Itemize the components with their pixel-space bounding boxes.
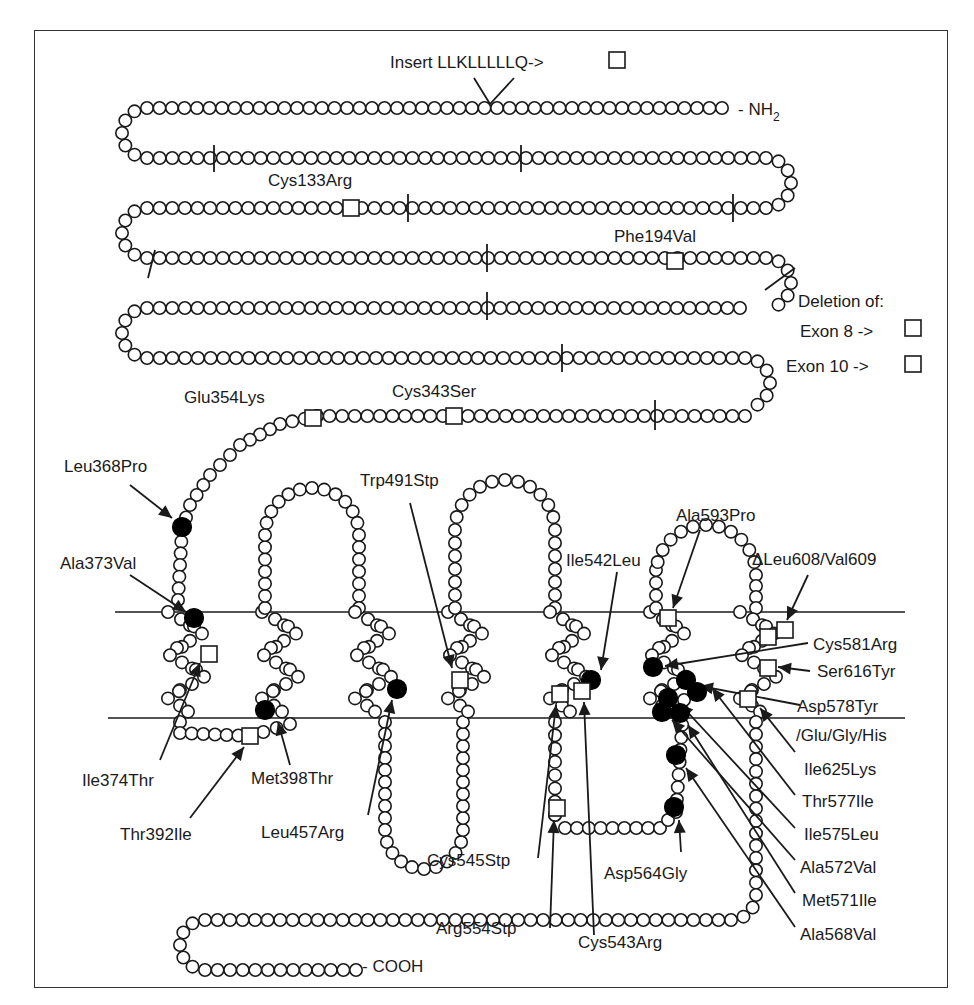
residue bbox=[230, 352, 242, 364]
arrow-ala572val bbox=[672, 720, 795, 860]
residue bbox=[278, 102, 290, 114]
label-thr577ile: Thr577Ile bbox=[802, 792, 874, 811]
residue bbox=[469, 302, 481, 314]
residue bbox=[722, 152, 734, 164]
residue bbox=[444, 152, 456, 164]
residue bbox=[688, 410, 700, 422]
label-glu354lys: Glu354Lys bbox=[184, 388, 265, 407]
residue bbox=[613, 410, 625, 422]
residue bbox=[254, 302, 266, 314]
residue bbox=[646, 202, 658, 214]
residue bbox=[524, 914, 536, 926]
residue bbox=[697, 202, 709, 214]
residue bbox=[459, 352, 471, 364]
residue bbox=[507, 152, 519, 164]
residue bbox=[747, 152, 759, 164]
residue bbox=[678, 102, 690, 114]
residue bbox=[650, 352, 662, 364]
residue bbox=[537, 914, 549, 926]
residue bbox=[457, 776, 469, 788]
residue bbox=[274, 964, 286, 976]
residue bbox=[750, 753, 762, 765]
residue bbox=[419, 202, 431, 214]
residue bbox=[469, 252, 481, 264]
marker-thr392ile bbox=[242, 728, 258, 744]
residue bbox=[750, 876, 762, 888]
residue bbox=[457, 152, 469, 164]
residue bbox=[154, 352, 166, 364]
deletion-title: Deletion of: bbox=[798, 292, 884, 311]
residue bbox=[276, 705, 288, 717]
residue bbox=[162, 692, 174, 704]
label-cys133arg: Cys133Arg bbox=[268, 171, 352, 190]
arrowhead bbox=[158, 505, 172, 518]
residue bbox=[449, 576, 461, 588]
residue bbox=[216, 102, 228, 114]
residue bbox=[286, 914, 298, 926]
residue bbox=[662, 914, 674, 926]
label-cys581arg: Cys581Arg bbox=[813, 635, 897, 654]
residue bbox=[658, 302, 670, 314]
residue bbox=[616, 102, 628, 114]
residue bbox=[659, 202, 671, 214]
residue bbox=[237, 964, 249, 976]
residue bbox=[174, 547, 186, 559]
residue bbox=[204, 252, 216, 264]
residue bbox=[259, 577, 271, 589]
arrowhead bbox=[672, 594, 683, 608]
residue bbox=[399, 914, 411, 926]
residue bbox=[211, 964, 223, 976]
label-cys343ser: Cys343Ser bbox=[392, 382, 476, 401]
residue bbox=[697, 152, 709, 164]
insertion-marker-square bbox=[609, 52, 625, 68]
residue bbox=[474, 480, 486, 492]
residue bbox=[286, 415, 298, 427]
residue bbox=[596, 252, 608, 264]
residue bbox=[703, 102, 715, 114]
marker-ile575leu bbox=[653, 703, 672, 722]
residue bbox=[337, 914, 349, 926]
marker-ala593pro bbox=[660, 610, 676, 626]
residue bbox=[725, 914, 737, 926]
residue bbox=[570, 152, 582, 164]
residue bbox=[487, 410, 499, 422]
residue bbox=[393, 202, 405, 214]
residue bbox=[570, 302, 582, 314]
residue bbox=[305, 302, 317, 314]
residue bbox=[353, 102, 365, 114]
residue bbox=[571, 822, 583, 834]
residue bbox=[428, 102, 440, 114]
residue bbox=[520, 252, 532, 264]
residue bbox=[353, 529, 365, 541]
residue bbox=[545, 152, 557, 164]
marker-asp578-alt bbox=[688, 683, 707, 702]
residue bbox=[351, 649, 363, 661]
residue bbox=[633, 302, 645, 314]
marker-cys581arg bbox=[644, 658, 663, 677]
residue bbox=[549, 524, 561, 536]
residue bbox=[243, 352, 255, 364]
residue bbox=[478, 671, 490, 683]
residue bbox=[600, 914, 612, 926]
residue bbox=[549, 769, 561, 781]
residue bbox=[292, 671, 304, 683]
residue bbox=[750, 839, 762, 851]
residue bbox=[220, 729, 232, 741]
residue bbox=[191, 152, 203, 164]
residue bbox=[446, 352, 458, 364]
residue bbox=[444, 302, 456, 314]
residue bbox=[659, 152, 671, 164]
residue bbox=[583, 202, 595, 214]
residue bbox=[294, 483, 306, 495]
residue bbox=[312, 964, 324, 976]
residue bbox=[457, 202, 469, 214]
residue bbox=[141, 302, 153, 314]
residue bbox=[192, 352, 204, 364]
residue bbox=[671, 152, 683, 164]
residue bbox=[175, 535, 187, 547]
residue bbox=[512, 476, 524, 488]
residue bbox=[608, 302, 620, 314]
residue bbox=[735, 152, 747, 164]
residue bbox=[241, 102, 253, 114]
residue bbox=[558, 202, 570, 214]
